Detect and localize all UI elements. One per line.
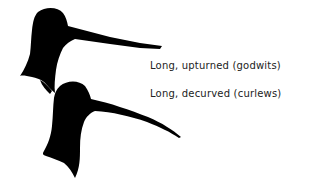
curlew-label: Long, decurved (curlews) — [150, 88, 281, 99]
godwit-head-silhouette — [20, 8, 162, 93]
godwit-label: Long, upturned (godwits) — [150, 60, 281, 71]
